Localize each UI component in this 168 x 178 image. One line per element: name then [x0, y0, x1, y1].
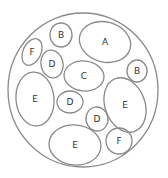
ellipse-label: C — [81, 71, 87, 81]
ellipse-f: F — [18, 36, 46, 69]
ellipse-label: E — [32, 94, 38, 104]
ellipses-group: ABFDCBEDEDEF — [14, 16, 154, 167]
ellipse-label: D — [67, 97, 74, 107]
ellipse-label: B — [134, 66, 140, 76]
ellipse-d: D — [57, 91, 83, 113]
ellipse-label: E — [122, 100, 128, 110]
ellipse-e: E — [47, 123, 102, 167]
ellipse-label: D — [49, 59, 56, 69]
ellipse-label: D — [94, 114, 101, 124]
ellipse-b: B — [50, 23, 72, 47]
ellipse-a: A — [75, 16, 136, 68]
ellipse-label: F — [116, 136, 121, 146]
ellipse-label: A — [102, 37, 109, 47]
outer-circle — [8, 13, 158, 167]
ellipse-label: E — [72, 140, 78, 150]
ellipse-label: B — [58, 30, 64, 40]
ellipse-b: B — [127, 60, 147, 82]
nested-ellipse-diagram: ABFDCBEDEDEF — [0, 0, 168, 178]
ellipse-label: F — [29, 47, 34, 57]
ellipse-f: F — [106, 128, 132, 154]
ellipse-c: C — [63, 59, 105, 92]
ellipse-e: E — [14, 70, 57, 127]
